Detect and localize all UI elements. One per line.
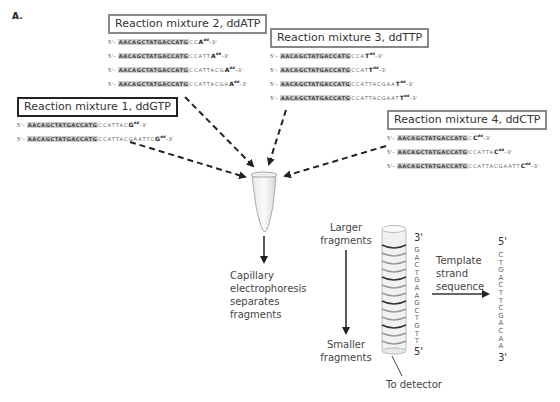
dashed-arrow-mix4 bbox=[285, 146, 386, 176]
column-3prime-label: 3' bbox=[414, 232, 423, 243]
sequence-row: 5'– AACAGCTATGACCATGCCATTACGAdd–3' bbox=[108, 61, 247, 75]
reaction-mixture-1-sequences: 5'– AACAGCTATGACCATGCCATTACGdd–3' 5'– AA… bbox=[17, 116, 174, 144]
tube-icon bbox=[251, 172, 277, 232]
sequence-row: 5'– AACAGCTATGACCATGCCATTACGAATTdd–3' bbox=[270, 89, 417, 103]
capillary-column-icon bbox=[382, 226, 406, 355]
reaction-mixture-3-sequences: 5'– AACAGCTATGACCATGCCATdd–3' 5'– AACAGC… bbox=[270, 47, 417, 103]
template-5prime-label: 5' bbox=[498, 236, 507, 247]
reaction-mixture-4-title: Reaction mixture 4, ddCTP bbox=[387, 110, 547, 130]
smaller-fragments-label: Smaller fragments bbox=[318, 338, 374, 364]
sequence-row: 5'– AACAGCTATGACCATGCCdd–3' bbox=[387, 129, 539, 143]
reaction-mixture-2-sequences: 5'– AACAGCTATGACCATGCCAdd–3' 5'– AACAGCT… bbox=[108, 33, 247, 89]
template-bases: C T G A C T T C G A C A A bbox=[497, 252, 505, 351]
template-3prime-label: 3' bbox=[498, 352, 507, 363]
reaction-mixture-2-title: Reaction mixture 2, ddATP bbox=[108, 14, 267, 34]
sequence-row: 5'– AACAGCTATGACCATGCCATTACGAATTCGdd–3' bbox=[17, 130, 174, 144]
sequence-row: 5'– AACAGCTATGACCATGCCATTACdd–3' bbox=[387, 143, 539, 157]
sequence-row: 5'– AACAGCTATGACCATGCCATTACGAATTCdd–3' bbox=[387, 157, 539, 171]
sequence-row: 5'– AACAGCTATGACCATGCCATTACGdd–3' bbox=[17, 116, 174, 130]
sequence-row: 5'– AACAGCTATGACCATGCCATTdd–3' bbox=[270, 61, 417, 75]
sequence-row: 5'– AACAGCTATGACCATGCCATTAdd–3' bbox=[108, 47, 247, 61]
reaction-mixture-3-title: Reaction mixture 3, ddTTP bbox=[270, 28, 429, 48]
sequence-row: 5'– AACAGCTATGACCATGCCATTACGAAdd–3' bbox=[108, 75, 247, 89]
sequence-row: 5'– AACAGCTATGACCATGCCAdd–3' bbox=[108, 33, 247, 47]
reaction-mixture-1-title: Reaction mixture 1, ddGTP bbox=[17, 97, 178, 117]
dashed-arrow-mix1 bbox=[130, 142, 245, 177]
column-bases: G A C T G A A G C T G T T bbox=[413, 247, 421, 346]
electrophoresis-label: Capillary electrophoresis separates frag… bbox=[230, 269, 307, 321]
dashed-arrow-mix2 bbox=[185, 97, 253, 166]
larger-fragments-label: Larger fragments bbox=[318, 221, 374, 247]
template-strand-label: Template strand sequence bbox=[436, 254, 484, 293]
column-5prime-label: 5' bbox=[414, 346, 423, 357]
sequence-row: 5'– AACAGCTATGACCATGCCATdd–3' bbox=[270, 47, 417, 61]
sequence-row: 5'– AACAGCTATGACCATGCCATTACGAATdd–3' bbox=[270, 75, 417, 89]
dashed-arrow-mix3 bbox=[269, 110, 286, 164]
reaction-mixture-4-sequences: 5'– AACAGCTATGACCATGCCdd–3' 5'– AACAGCTA… bbox=[387, 129, 539, 171]
to-detector-label: To detector bbox=[386, 378, 442, 391]
